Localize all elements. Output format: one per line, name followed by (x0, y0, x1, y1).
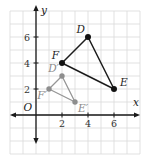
y-tick-label: 4 (24, 58, 30, 69)
vertex-label-E′: E′ (77, 102, 89, 114)
x-axis-right-arrow (134, 112, 140, 117)
y-axis-up-arrow (33, 5, 38, 11)
x-axis-label: x (133, 96, 139, 108)
tick-labels: 246246 (24, 32, 117, 129)
vertex-label-D′: D′ (47, 62, 59, 74)
axes (13, 9, 136, 140)
vertex-dot-E′ (72, 99, 77, 104)
y-axis-label: y (40, 4, 48, 16)
ticks (34, 37, 115, 118)
vertex-label-E: E (119, 76, 128, 88)
vertex-label-F′: F′ (36, 89, 47, 101)
vertex-dot-F′ (46, 86, 51, 91)
y-tick-label: 2 (24, 84, 30, 95)
vertex-label-D: D (76, 23, 86, 35)
origin-label: O (23, 101, 32, 113)
x-tick-label: 4 (85, 118, 91, 129)
y-tick-label: 6 (24, 32, 30, 43)
x-axis-left-arrow (10, 112, 16, 117)
x-tick-label: 2 (59, 118, 65, 129)
coordinate-plane-svg: 246246xyOD′F′E′DFE (0, 0, 145, 157)
triangle-D'F'E': D′F′E′ (36, 62, 88, 114)
vertex-dot-D′ (59, 73, 64, 78)
x-tick-label: 6 (111, 118, 117, 129)
vertex-dot-F (59, 60, 65, 66)
vertex-label-F: F (51, 49, 60, 61)
vertex-dot-D (85, 34, 91, 40)
coordinate-plane-figure: 246246xyOD′F′E′DFE (0, 0, 145, 157)
vertex-dot-E (111, 86, 117, 92)
